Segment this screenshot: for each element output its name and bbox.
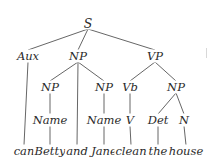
tree-edge-np1-w_and bbox=[77, 62, 78, 145]
node-vp: VP bbox=[146, 50, 164, 63]
node-name1: Name bbox=[32, 114, 69, 127]
node-name2: Name bbox=[86, 114, 123, 127]
node-np3: NP bbox=[94, 81, 114, 94]
node-vb: Vb bbox=[121, 81, 139, 94]
tree-edge-s-aux bbox=[28, 29, 88, 50]
node-np4: NP bbox=[166, 81, 186, 94]
syntax-tree-diagram: SAuxNPVPNPNPVbNPNameNameVDetNcanBettyand… bbox=[0, 0, 214, 167]
node-np1: NP bbox=[68, 50, 88, 63]
node-det: Det bbox=[147, 114, 170, 127]
tree-edge-s-vp bbox=[88, 29, 155, 50]
node-v: V bbox=[125, 114, 135, 127]
tree-edge-np1-np3 bbox=[78, 62, 104, 81]
word-w-house: house bbox=[168, 145, 204, 158]
tree-edge-vp-vb bbox=[130, 62, 155, 81]
node-np2: NP bbox=[40, 81, 60, 94]
tree-edge-v-w_clean bbox=[130, 126, 131, 145]
node-n: N bbox=[178, 114, 190, 127]
word-w-clean: clean bbox=[114, 145, 147, 158]
node-aux: Aux bbox=[16, 50, 40, 63]
tree-edge-vp-np4 bbox=[155, 62, 176, 81]
word-w-betty: Betty bbox=[34, 145, 67, 158]
word-w-and: and bbox=[65, 145, 89, 158]
scan-artifact bbox=[206, 48, 207, 58]
tree-edge-np4-n bbox=[176, 93, 184, 114]
tree-edge-np1-np2 bbox=[50, 62, 78, 81]
tree-edge-n-w_house bbox=[184, 126, 186, 145]
tree-edge-aux-w_can bbox=[24, 62, 28, 145]
tree-edge-np4-det bbox=[158, 93, 176, 114]
word-w-the: the bbox=[148, 145, 169, 158]
word-w-can: can bbox=[13, 145, 36, 158]
node-s: S bbox=[83, 17, 94, 30]
